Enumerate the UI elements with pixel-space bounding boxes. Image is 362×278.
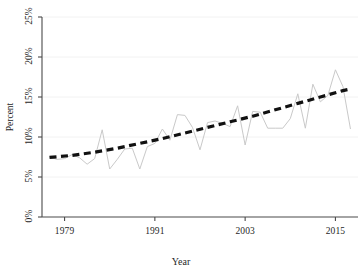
y-axis-title: Percent xyxy=(5,102,15,131)
y-tick-label: 25% xyxy=(24,7,34,25)
x-tick-label: 1979 xyxy=(45,226,85,236)
y-tick-label: 5% xyxy=(24,167,34,185)
y-tick-label: 20% xyxy=(24,47,34,65)
trend-line xyxy=(50,89,351,157)
y-tick-label: 10% xyxy=(24,127,34,145)
x-tick-label: 2015 xyxy=(315,226,355,236)
series-line xyxy=(50,70,351,169)
x-tick-label: 2003 xyxy=(225,226,265,236)
axis-line-group xyxy=(42,17,358,217)
x-tick-group xyxy=(65,217,336,221)
y-tick-label: 0% xyxy=(24,207,34,225)
x-axis-title: Year xyxy=(0,256,362,267)
y-tick-group xyxy=(38,17,42,217)
y-tick-label: 15% xyxy=(24,87,34,105)
chart-plot-area: Percent xyxy=(0,0,362,278)
x-tick-label: 1991 xyxy=(135,226,175,236)
data-series-group xyxy=(50,70,351,169)
chart-container: Percent 1979199120032015 0%5%10%15%20%25… xyxy=(0,0,362,278)
